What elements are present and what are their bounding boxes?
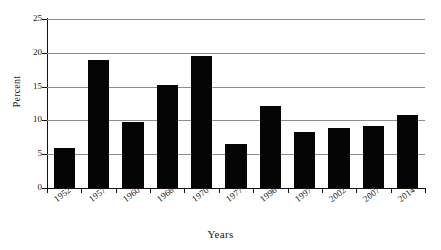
x-tick-mark-end [425, 188, 426, 193]
x-axis-title: Years [0, 228, 441, 240]
x-tick-mark-9 [356, 188, 357, 193]
x-tick-mark-7 [288, 188, 289, 193]
y-tick-mark-20 [42, 53, 47, 54]
x-tick-mark-10 [391, 188, 392, 193]
y-tick-mark-15 [42, 87, 47, 88]
y-tick-mark-25 [42, 19, 47, 20]
y-tick-label-0: 0 [16, 183, 42, 192]
x-axis-ticks [47, 0, 425, 250]
x-tick-mark-4 [184, 188, 185, 193]
x-tick-mark-3 [150, 188, 151, 193]
y-tick-mark-0 [42, 188, 47, 189]
y-tick-label-25: 25 [16, 14, 42, 23]
chart-page: 0510152025 Percent Years 195219571960196… [0, 0, 441, 250]
y-axis-title: Percent [11, 52, 22, 132]
x-tick-mark-5 [219, 188, 220, 193]
x-tick-mark-0 [47, 188, 48, 193]
x-tick-mark-6 [253, 188, 254, 193]
x-tick-mark-8 [322, 188, 323, 193]
y-tick-mark-5 [42, 154, 47, 155]
x-tick-mark-2 [116, 188, 117, 193]
x-tick-mark-1 [81, 188, 82, 193]
y-tick-mark-10 [42, 120, 47, 121]
y-tick-label-5: 5 [16, 149, 42, 158]
